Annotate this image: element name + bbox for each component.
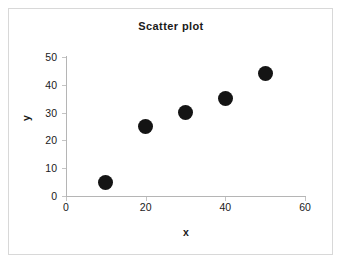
y-tick-label: 40: [17, 80, 57, 91]
y-tick-mark: [62, 140, 66, 141]
y-tick-label: 0: [17, 191, 57, 202]
x-axis-title: x: [66, 226, 306, 238]
scatter-plot-figure: Scatter plot x y 010203040500204060: [0, 0, 342, 264]
data-point: [178, 105, 193, 120]
data-point: [258, 66, 273, 81]
y-axis-line: [66, 56, 67, 197]
y-tick-label: 30: [17, 108, 57, 119]
y-tick-mark: [62, 168, 66, 169]
x-tick-label: 20: [126, 202, 166, 213]
data-point: [218, 91, 233, 106]
y-tick-label: 50: [17, 52, 57, 63]
x-tick-label: 60: [285, 202, 325, 213]
data-point: [98, 175, 113, 190]
y-tick-label: 20: [17, 135, 57, 146]
y-tick-label: 10: [17, 163, 57, 174]
x-axis-line: [66, 196, 306, 197]
y-tick-mark: [62, 85, 66, 86]
chart-title: Scatter plot: [0, 20, 342, 32]
x-tick-label: 0: [46, 202, 86, 213]
y-tick-mark: [62, 57, 66, 58]
y-tick-mark: [62, 113, 66, 114]
x-tick-label: 40: [205, 202, 245, 213]
